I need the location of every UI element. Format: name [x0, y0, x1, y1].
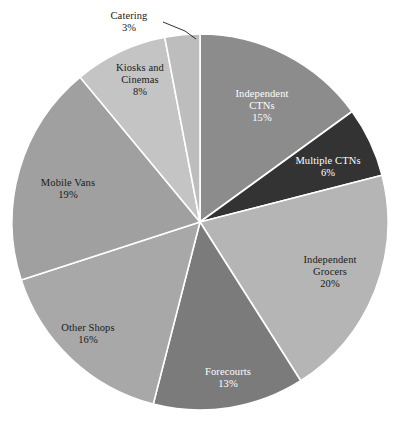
pie-chart: IndependentCTNs15%Multiple CTNs6%Indepen…: [0, 0, 398, 427]
pie-chart-svg: [0, 0, 398, 427]
pie-slices-group: [12, 34, 388, 410]
